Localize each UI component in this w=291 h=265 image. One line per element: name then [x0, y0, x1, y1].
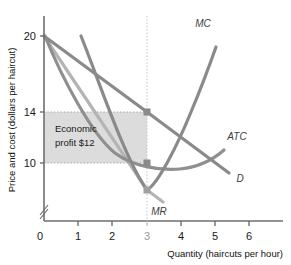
x-tick-label-2: 2: [109, 230, 115, 242]
x-tick-label-1: 1: [75, 230, 81, 242]
mr-mc-point-marker: [144, 187, 151, 194]
y-tick-label-20: 20: [24, 30, 36, 42]
demand-curve-label: D: [236, 173, 243, 184]
economic-profit-label-line2: profit $12: [55, 137, 95, 148]
x-tick-label-5: 5: [212, 230, 218, 242]
x-tick-label-4: 4: [178, 230, 184, 242]
mc-curve-label: MC: [195, 18, 211, 29]
price-point-marker: [144, 109, 151, 116]
chart-canvas: 20 14 10 0 1 2 3 4 5 6 Price and cost (d…: [0, 0, 291, 265]
y-axis-title: Price and cost (dollars per haircut): [6, 48, 17, 193]
x-axis-title: Quantity (haircuts per hour): [167, 248, 283, 259]
cost-point-marker: [144, 160, 151, 167]
y-tick-label-14: 14: [24, 106, 36, 118]
economics-chart: 20 14 10 0 1 2 3 4 5 6 Price and cost (d…: [0, 0, 291, 265]
x-tick-label-3: 3: [144, 230, 150, 242]
economic-profit-label-line1: Economic: [55, 123, 97, 134]
x-tick-label-6: 6: [246, 230, 252, 242]
y-tick-label-10: 10: [24, 157, 36, 169]
atc-curve-label: ATC: [226, 131, 247, 142]
mr-curve-label: MR: [151, 206, 167, 217]
x-tick-label-0: 0: [37, 230, 43, 242]
